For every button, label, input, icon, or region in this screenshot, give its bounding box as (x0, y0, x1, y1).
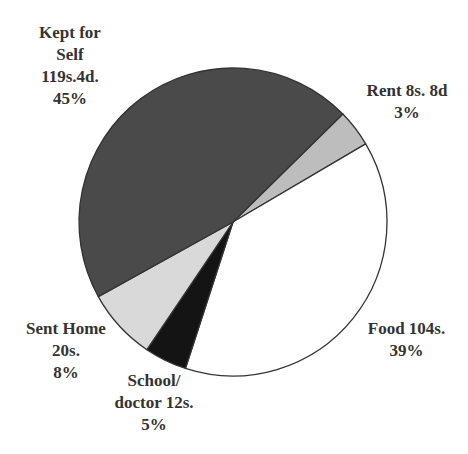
label-line: 3% (352, 102, 462, 124)
label-line: Food 104s. (354, 318, 459, 340)
label-food: Food 104s. 39% (354, 318, 459, 362)
label-line: 8% (18, 362, 114, 384)
label-line: 39% (354, 340, 459, 362)
label-line: doctor 12s. (94, 392, 214, 414)
label-line: 5% (94, 414, 214, 436)
label-line: 20s. (18, 340, 114, 362)
label-line: 119s.4d. (20, 66, 120, 88)
label-kept-for-self: Kept for Self 119s.4d. 45% (20, 22, 120, 110)
label-line: Rent 8s. 8d (352, 80, 462, 102)
label-rent: Rent 8s. 8d 3% (352, 80, 462, 124)
label-sent-home: Sent Home 20s. 8% (18, 318, 114, 384)
label-line: 45% (20, 88, 120, 110)
label-line: Sent Home (18, 318, 114, 340)
label-line: Kept for (20, 22, 120, 44)
label-line: Self (20, 44, 120, 66)
